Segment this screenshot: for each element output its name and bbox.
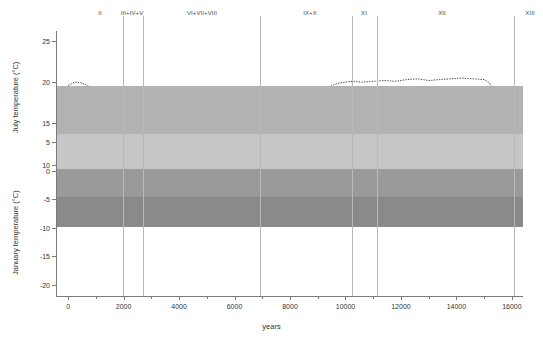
background-band-mid-pale-gray: [57, 134, 523, 169]
background-band-bottom-white: [57, 227, 523, 296]
january-y-tick--20: [52, 285, 56, 286]
july-y-tick-label-20: 20: [24, 79, 50, 86]
january-y-tick-label-0: 0: [24, 167, 50, 174]
zone-divider-0: [123, 16, 124, 296]
january-y-tick-label--20: -20: [24, 281, 50, 288]
january-y-tick--15: [52, 256, 56, 257]
plot-area: [57, 31, 523, 296]
july-y-tick-25: [52, 41, 56, 42]
x-minor-tick-11000: [373, 296, 374, 299]
x-minor-tick-9000: [318, 296, 319, 299]
zone-label-II: II: [98, 10, 102, 16]
zone-divider-5: [514, 16, 515, 296]
x-minor-tick-1000: [96, 296, 97, 299]
january-y-tick-label--15: -15: [24, 253, 50, 260]
x-tick-label-0: 0: [66, 303, 70, 310]
zone-label-XIII: XIII: [525, 10, 534, 16]
july-y-tick-15: [52, 123, 56, 124]
january-y-tick-label-5: 5: [24, 139, 50, 146]
zone-divider-1: [143, 16, 144, 296]
july-y-tick-label-15: 15: [24, 120, 50, 127]
x-minor-tick-15000: [484, 296, 485, 299]
zone-label-XI: XI: [361, 10, 367, 16]
zone-divider-2: [260, 16, 261, 296]
x-tick-12000: [401, 296, 402, 300]
x-axis-title: years: [0, 322, 543, 331]
background-band-lower-dark-gray: [57, 197, 523, 227]
zone-label-XII: XII: [438, 10, 446, 16]
x-tick-label-8000: 8000: [282, 303, 298, 310]
x-tick-14000: [456, 296, 457, 300]
y-axis-title-july: July temperature (°C): [11, 62, 20, 133]
january-y-tick--10: [52, 228, 56, 229]
x-tick-4000: [179, 296, 180, 300]
july-y-tick-label-25: 25: [24, 37, 50, 44]
x-tick-8000: [290, 296, 291, 300]
x-tick-6000: [235, 296, 236, 300]
x-minor-tick-7000: [262, 296, 263, 299]
x-tick-label-2000: 2000: [116, 303, 132, 310]
x-tick-label-12000: 12000: [391, 303, 410, 310]
x-tick-label-4000: 4000: [171, 303, 187, 310]
chart-figure: July temperature (°C) January temperatur…: [0, 0, 543, 340]
zone-label-IX-X: IX+X: [303, 10, 317, 16]
zone-label-VI-VII-VIII: VI+VII+VIII: [187, 10, 217, 16]
x-tick-10000: [345, 296, 346, 300]
january-y-tick-5: [52, 142, 56, 143]
background-band-mid-gray: [57, 169, 523, 197]
background-band-upper-light-gray: [57, 86, 523, 134]
y-axis-title-january: January temperature (°C): [11, 190, 20, 275]
july-y-tick-20: [52, 82, 56, 83]
x-minor-tick-13000: [429, 296, 430, 299]
x-tick-2000: [124, 296, 125, 300]
y-axis-line: [56, 31, 57, 297]
x-tick-16000: [512, 296, 513, 300]
x-tick-label-14000: 14000: [447, 303, 466, 310]
x-tick-label-6000: 6000: [227, 303, 243, 310]
x-minor-tick-3000: [151, 296, 152, 299]
january-y-tick-label--5: -5: [24, 196, 50, 203]
zone-label-III-IV-V: III+IV+V: [121, 10, 143, 16]
x-tick-label-16000: 16000: [502, 303, 521, 310]
x-minor-tick-5000: [207, 296, 208, 299]
january-y-tick-label--10: -10: [24, 224, 50, 231]
january-y-tick-0: [52, 171, 56, 172]
july-y-tick-10: [52, 165, 56, 166]
january-y-tick--5: [52, 199, 56, 200]
x-tick-0: [68, 296, 69, 300]
zone-divider-4: [377, 16, 378, 296]
x-tick-label-10000: 10000: [336, 303, 355, 310]
zone-divider-3: [352, 16, 353, 296]
